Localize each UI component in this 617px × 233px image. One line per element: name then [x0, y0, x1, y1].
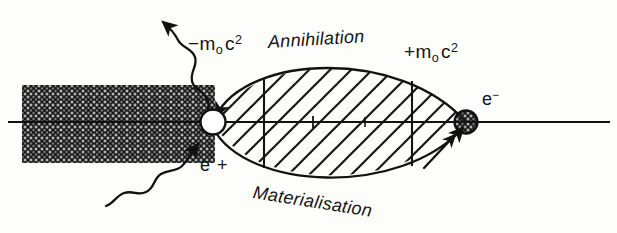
minus-sign: − — [188, 33, 200, 54]
label-positive-rest-energy: +moc2 — [404, 41, 458, 65]
electron-particle-marker — [455, 111, 478, 134]
mass-symbol: m — [416, 41, 432, 62]
c-symbol: c — [439, 41, 451, 62]
mass-subscript: o — [216, 43, 223, 57]
positron-hole-marker — [201, 110, 226, 135]
electron-symbol: e — [482, 89, 493, 109]
label-positron: e + — [200, 155, 229, 176]
label-negative-rest-energy: −moc2 — [188, 33, 242, 57]
c-symbol: c — [223, 33, 235, 54]
forbidden-energy-gap — [205, 50, 475, 200]
physics-diagram-figure: −moc2 +moc2 Annihilation Materialisation… — [0, 0, 617, 233]
c-exponent: 2 — [235, 33, 242, 47]
plus-sign: + — [404, 41, 416, 62]
c-exponent: 2 — [451, 41, 458, 55]
mass-symbol: m — [200, 33, 216, 54]
negative-energy-sea — [22, 85, 215, 163]
mass-subscript: o — [432, 51, 439, 65]
electron-charge: − — [493, 88, 500, 102]
label-electron: e− — [482, 88, 500, 110]
